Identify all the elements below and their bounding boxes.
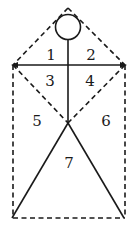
left-leg-line bbox=[12, 123, 68, 218]
stick-figure-diagram: 1 2 3 4 5 6 7 bbox=[0, 0, 132, 230]
region-label-6: 6 bbox=[101, 112, 111, 130]
dashed-right-diagonal bbox=[68, 65, 125, 123]
right-leg-line bbox=[68, 123, 124, 218]
region-label-2: 2 bbox=[86, 46, 96, 64]
region-label-1: 1 bbox=[46, 46, 56, 64]
region-label-7: 7 bbox=[64, 154, 74, 172]
region-label-5: 5 bbox=[32, 112, 42, 130]
region-label-4: 4 bbox=[85, 72, 95, 90]
head-circle bbox=[56, 15, 81, 40]
region-label-3: 3 bbox=[45, 72, 55, 90]
